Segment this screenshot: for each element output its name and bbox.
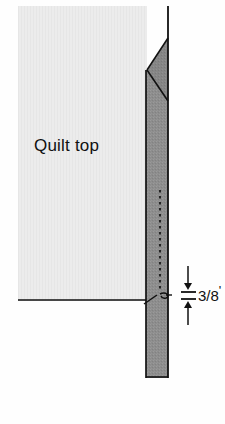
dimension-unit-mark: ' (219, 283, 221, 298)
dimension-arrow (181, 266, 196, 325)
diagram-canvas: Quilt top 3/8' (0, 0, 225, 424)
quilt-binding-diagram (0, 0, 225, 424)
dimension-denominator: 8 (211, 287, 219, 304)
quilt-top-label: Quilt top (34, 136, 99, 156)
binding-strip (146, 70, 168, 378)
dimension-label: 3/8' (198, 284, 221, 303)
